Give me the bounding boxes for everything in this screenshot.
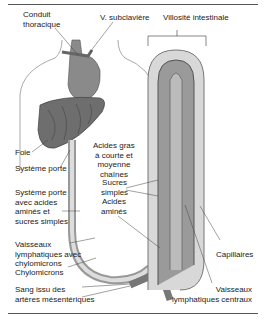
label-acides-gras: Acides gras à courte et moyenne chaînes — [93, 141, 135, 179]
label-foie: Foie — [15, 148, 31, 158]
label-systeme-porte-avec: Système porte avec acides aminés et sucr… — [15, 188, 68, 226]
label-sang-issu: Sang issu des artères mésentériques — [15, 285, 95, 304]
label-vaisseaux-lymph-chylo: Vaisseaux lymphatiques avec chylomicrons — [15, 240, 81, 269]
label-systeme-porte: Système porte — [15, 164, 67, 174]
label-capillaires: Capillaires — [216, 250, 253, 260]
label-v-subclaviere: V. subclavière — [100, 13, 150, 23]
label-sucres-simples: Sucres simples — [101, 178, 128, 197]
label-conduit-thoracique: Conduit thoracique — [23, 10, 60, 29]
label-chylomicrons: Chylomicrons — [15, 268, 63, 278]
label-vaisseaux-lymph-centraux: Vaisseaux lymphatiques centraux — [172, 285, 252, 304]
label-villosite-intestinale: Villosité intestinale — [163, 13, 229, 23]
lacteal — [170, 73, 182, 270]
label-acides-amines: Acides aminés — [101, 197, 127, 216]
villus-bracket — [148, 30, 206, 46]
